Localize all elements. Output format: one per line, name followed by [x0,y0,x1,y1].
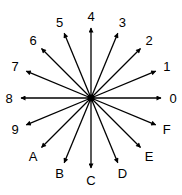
direction-label-5: 5 [56,15,63,30]
direction-label-4: 4 [87,9,94,24]
direction-label-d: D [118,166,127,181]
direction-label-3: 3 [119,15,126,30]
direction-label-9: 9 [12,122,19,137]
arrow-a [42,98,92,148]
direction-label-8: 8 [5,91,12,106]
center-hub-dot [88,95,95,102]
direction-label-a: A [29,149,38,164]
direction-label-6: 6 [29,33,36,48]
direction-label-0: 0 [169,91,176,106]
direction-label-b: B [55,166,64,181]
arrow-6 [42,49,92,99]
direction-label-f: F [163,122,171,137]
direction-label-c: C [86,173,95,188]
arrow-e [91,98,141,148]
direction-label-7: 7 [12,59,19,74]
direction-label-1: 1 [163,59,170,74]
arrow-2 [91,49,141,99]
direction-label-2: 2 [145,33,152,48]
direction-label-e: E [145,149,154,164]
compass-diagram: 0123456789ABCDEF [0,0,182,195]
